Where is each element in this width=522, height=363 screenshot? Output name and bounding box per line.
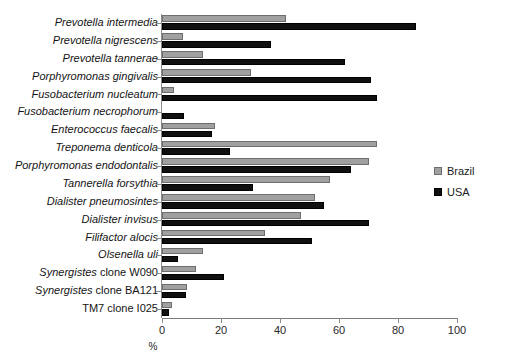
category-label: Olsenella uli <box>0 246 158 264</box>
category-label: TM7 clone I025 <box>0 300 158 318</box>
category-label: Synergistes clone W090 <box>0 264 158 282</box>
x-axis-tick-label: 80 <box>392 324 404 336</box>
bar-brazil <box>162 15 286 21</box>
x-axis-tick <box>339 318 340 323</box>
bar-row: Olsenella uli <box>0 246 522 264</box>
y-axis-tick <box>156 77 161 78</box>
bar-row: Dialister invisus <box>0 211 522 229</box>
bar-usa <box>162 202 324 208</box>
y-axis-tick <box>156 94 161 95</box>
bar-usa <box>162 59 345 65</box>
legend-label-usa: USA <box>447 186 470 198</box>
x-axis-tick-label: 40 <box>274 324 286 336</box>
y-axis-tick <box>156 184 161 185</box>
bar-brazil <box>162 302 172 308</box>
category-label: Filifactor alocis <box>0 229 158 247</box>
bar-usa <box>162 77 371 83</box>
bar-brazil <box>162 176 330 182</box>
x-axis-tick-label: 20 <box>215 324 227 336</box>
bar-usa <box>162 41 271 47</box>
category-label: Prevotella nigrescens <box>0 32 158 50</box>
x-axis-tick <box>457 318 458 323</box>
legend-item-usa: USA <box>434 183 475 200</box>
bar-brazil <box>162 194 315 200</box>
y-axis-tick <box>156 255 161 256</box>
legend-swatch-brazil <box>434 167 442 175</box>
category-label: Porphyromonas endodontalis <box>0 157 158 175</box>
y-axis-tick <box>156 23 161 24</box>
bar-usa <box>162 309 169 315</box>
bar-brazil <box>162 87 174 93</box>
bar-brazil <box>162 284 187 290</box>
category-label: Prevotella intermedia <box>0 14 158 32</box>
legend-label-brazil: Brazil <box>447 165 475 177</box>
bar-row: Porphyromonas gingivalis <box>0 68 522 86</box>
x-axis-tick <box>398 318 399 323</box>
bar-brazil <box>162 266 196 272</box>
x-axis-tick <box>221 318 222 323</box>
bar-usa <box>162 220 369 226</box>
bar-usa <box>162 292 186 298</box>
bar-row: TM7 clone I025 <box>0 300 522 318</box>
category-label: Fusobacterium necrophorum <box>0 103 158 121</box>
bar-brazil <box>162 248 203 254</box>
bar-usa <box>162 148 230 154</box>
bar-row: Filifactor alocis <box>0 229 522 247</box>
bar-usa <box>162 166 351 172</box>
y-axis-tick <box>156 59 161 60</box>
x-axis-tick <box>162 318 163 323</box>
category-label: Synergistes clone BA121 <box>0 282 158 300</box>
legend-swatch-usa <box>434 188 442 196</box>
bar-row: Fusobacterium necrophorum <box>0 103 522 121</box>
x-axis-tick-label: 100 <box>448 324 466 336</box>
bar-usa <box>162 131 212 137</box>
x-axis-tick <box>280 318 281 323</box>
bar-usa <box>162 274 224 280</box>
category-label: Prevotella tannerae <box>0 50 158 68</box>
y-axis-tick <box>156 202 161 203</box>
x-axis-label-text: % <box>149 341 158 352</box>
bar-row: Treponema denticola <box>0 139 522 157</box>
bar-usa <box>162 23 416 29</box>
x-axis-label: % <box>0 341 522 352</box>
y-axis-tick <box>156 148 161 149</box>
bar-brazil <box>162 69 251 75</box>
y-axis-tick <box>156 238 161 239</box>
bar-usa <box>162 238 312 244</box>
bar-row: Enterococcus faecalis <box>0 121 522 139</box>
chart-legend: Brazil USA <box>434 162 475 204</box>
bar-brazil <box>162 212 301 218</box>
bar-brazil <box>162 33 183 39</box>
bar-brazil <box>162 230 265 236</box>
bar-brazil <box>162 123 215 129</box>
bar-usa <box>162 95 377 101</box>
bar-chart: Prevotella intermediaPrevotella nigresce… <box>0 0 522 363</box>
legend-item-brazil: Brazil <box>434 162 475 179</box>
bar-row: Synergistes clone BA121 <box>0 282 522 300</box>
bar-brazil <box>162 158 369 164</box>
y-axis-tick <box>156 130 161 131</box>
y-axis-tick <box>156 220 161 221</box>
x-axis-tick-label: 0 <box>159 324 165 336</box>
bar-usa <box>162 184 253 190</box>
y-axis-tick <box>156 41 161 42</box>
y-axis-tick <box>156 112 161 113</box>
y-axis-tick <box>156 309 161 310</box>
y-axis-tick <box>156 166 161 167</box>
category-label: Dialister pneumosintes <box>0 193 158 211</box>
bar-row: Prevotella intermedia <box>0 14 522 32</box>
bar-usa <box>162 113 184 119</box>
category-label: Porphyromonas gingivalis <box>0 68 158 86</box>
bar-brazil <box>162 51 203 57</box>
y-axis-tick <box>156 291 161 292</box>
bar-row: Prevotella nigrescens <box>0 32 522 50</box>
bar-row: Synergistes clone W090 <box>0 264 522 282</box>
y-axis-tick <box>156 273 161 274</box>
category-label: Tannerella forsythia <box>0 175 158 193</box>
category-label: Dialister invisus <box>0 211 158 229</box>
x-axis-line <box>162 318 458 319</box>
bar-usa <box>162 256 178 262</box>
bar-row: Fusobacterium nucleatum <box>0 86 522 104</box>
bar-row: Prevotella tannerae <box>0 50 522 68</box>
category-label: Enterococcus faecalis <box>0 121 158 139</box>
